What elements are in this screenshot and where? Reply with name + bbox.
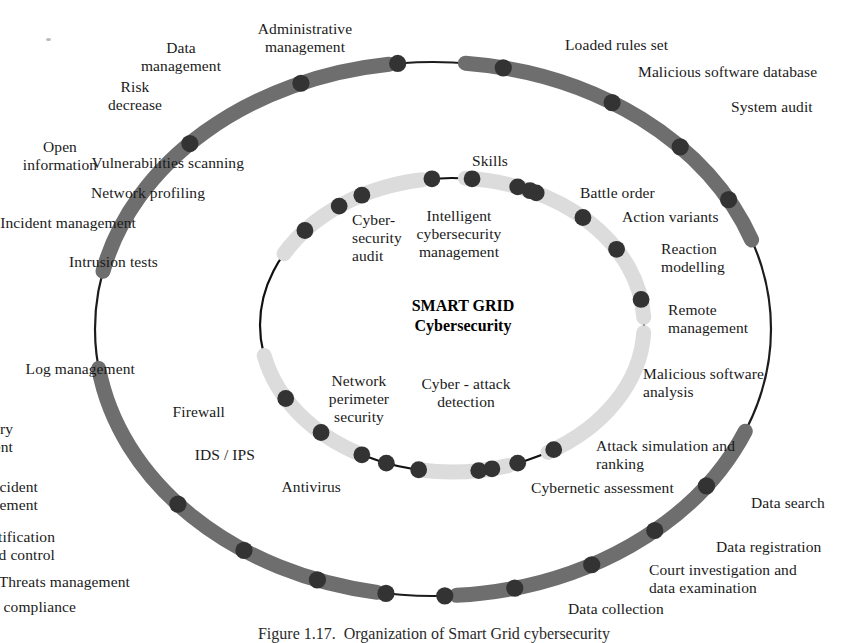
ring-node-label: Vulnerabilities scanning — [91, 154, 244, 172]
ring-node-dot — [389, 55, 406, 72]
ring-node-label: Network perimeter security — [329, 372, 389, 426]
ring-node-label: Access identification and control — [0, 528, 55, 564]
ring-node-dot — [353, 446, 370, 463]
ring-node-label: Loaded rules set — [565, 36, 668, 54]
ring-node-dot — [646, 522, 663, 539]
ring-node-label: Cyber - attack detection — [421, 375, 510, 411]
paper-speck — [46, 38, 51, 41]
ring-node-dot — [235, 542, 252, 559]
ring-node-dot — [410, 461, 427, 478]
ring-node-label: Log management — [26, 360, 135, 378]
ring-node-dot — [313, 424, 330, 441]
ring-node-label: Data collection — [568, 600, 664, 618]
ring-node-label: Skills — [472, 152, 508, 170]
ring-node-dot — [424, 170, 441, 187]
ring-node-label: Action variants — [622, 208, 719, 226]
ring-node-label: Intrusion tests — [69, 253, 158, 271]
ring-node-label: Battle order — [580, 184, 655, 202]
ring-node-dot — [309, 571, 326, 588]
ring-node-dot — [464, 170, 481, 187]
ring-node-dot — [720, 191, 737, 208]
ring-node-label: Data management — [141, 39, 221, 75]
ring-node-dot — [495, 59, 512, 76]
ring-node-dot — [377, 585, 394, 602]
ring-node-dot — [181, 135, 198, 152]
ring-node-label: Incident management — [0, 214, 136, 232]
ring-node-label: Administrative management — [258, 20, 352, 56]
ring-node-dot — [509, 455, 526, 472]
ring-node-dot — [353, 187, 370, 204]
ring-node-dot — [608, 241, 625, 258]
ring-node-label: Data registration — [716, 538, 821, 556]
ring-node-dot — [528, 184, 545, 201]
ring-node-label: Open information — [23, 138, 97, 174]
ring-node-dot — [169, 496, 186, 513]
ring-node-label: Cyber- security audit — [352, 211, 402, 265]
ring-node-label: Firewall — [173, 403, 225, 421]
ring-node-label: Malicious software database — [638, 63, 817, 81]
ring-node-label: Antivirus — [282, 478, 341, 496]
ring-node-label: Risk decrease — [108, 78, 162, 114]
ring-node-label: Court investigation and data examination — [649, 561, 797, 597]
ring-node-dot — [292, 75, 309, 92]
ring-node-label: Remote management — [668, 301, 748, 337]
ring-node-label: Reaction modelling — [661, 240, 725, 276]
ring-node-dot — [545, 441, 562, 458]
ring-node-dot — [378, 455, 395, 472]
ring-node-dot — [604, 94, 621, 111]
ring-node-label: Data search — [751, 494, 825, 512]
ring-node-label: IDS / IPS — [195, 446, 255, 464]
ring-node-label: Delivery management — [0, 420, 13, 456]
ring-node-label: System audit — [731, 98, 813, 116]
ring-node-dot — [575, 209, 592, 226]
figure-caption: Figure 1.17. Organization of Smart Grid … — [0, 625, 868, 643]
ring-node-label: Malicious software analysis — [643, 365, 764, 401]
ring-node-label: Policies management and compliance — [0, 598, 76, 616]
ring-node-label: Network profiling — [91, 184, 205, 202]
ring-node-dot — [277, 390, 294, 407]
ring-node-dot — [470, 462, 487, 479]
ring-node-dot — [698, 477, 715, 494]
ring-node-dot — [436, 587, 453, 604]
ring-node-label: Attack simulation and ranking — [596, 437, 735, 473]
ring-node-label: Intelligent cybersecurity management — [417, 207, 502, 261]
ring-node-label: Threats management — [0, 573, 130, 591]
ring-node-dot — [672, 138, 689, 155]
ring-node-dot — [506, 579, 523, 596]
ring-node-label: Cybernetic assessment — [531, 479, 674, 497]
ring-node-label: Incident management — [0, 478, 38, 514]
ring-node-dot — [331, 198, 348, 215]
ring-node-dot — [297, 222, 314, 239]
ring-node-dot — [583, 556, 600, 573]
